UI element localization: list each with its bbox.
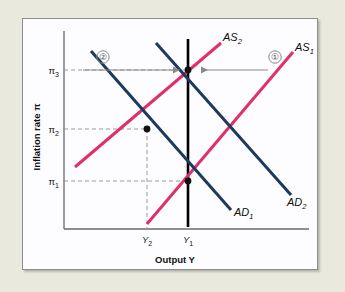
curve-ad2	[156, 43, 291, 195]
step-two-label: ②	[99, 52, 107, 62]
x-axis-title: Output Y	[155, 254, 196, 265]
x-tick-y2: Y2	[142, 234, 152, 247]
step-two-badge: ②	[97, 51, 109, 63]
step-one-label: ①	[271, 52, 279, 62]
curve-ad1	[91, 51, 231, 210]
y-axis-title: Inflation rate π	[31, 103, 42, 171]
curve-label-as1: AS1	[294, 41, 314, 56]
curve-label-as2: AS2	[222, 31, 243, 46]
y-tick-pi1: π1	[49, 176, 60, 189]
curve-as2	[75, 43, 221, 167]
x-tick-y1: Y1	[183, 234, 193, 247]
y-tick-pi3: π3	[49, 65, 60, 78]
point-pi2-y2	[144, 126, 151, 133]
point-pi1-y1	[185, 178, 192, 185]
y-tick-pi2: π2	[49, 124, 60, 137]
as-ad-diagram: ① ② AS2 AS1 AD1 AD2 π3 π2 π1 Y2 Y1 Outpu…	[23, 19, 317, 269]
curve-label-ad1: AD1	[233, 206, 253, 221]
point-pi3-y1	[185, 67, 192, 74]
figure-panel: ① ② AS2 AS1 AD1 AD2 π3 π2 π1 Y2 Y1 Outpu…	[22, 18, 318, 270]
step-one-badge: ①	[269, 51, 281, 63]
curve-label-ad2: AD2	[286, 196, 307, 211]
